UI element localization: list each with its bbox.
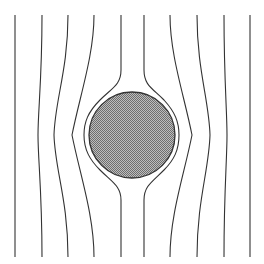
streamline [54, 15, 68, 257]
streamline-diagram [0, 0, 264, 264]
streamline [38, 15, 42, 257]
streamline [197, 15, 210, 257]
cylinder-obstacle [89, 92, 175, 178]
streamline [224, 15, 227, 257]
